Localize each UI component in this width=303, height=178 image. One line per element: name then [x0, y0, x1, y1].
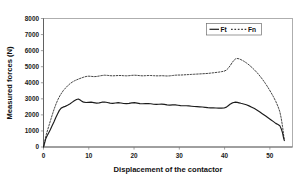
y-tick-label: 7000 — [25, 31, 40, 38]
measured-forces-line-chart: 010002000300040005000600070008000 010203… — [0, 0, 303, 178]
x-tick-label: 0 — [42, 152, 46, 159]
y-tick-label: 8000 — [25, 15, 40, 22]
x-tick-label: 10 — [85, 152, 93, 159]
y-tick-label: 6000 — [25, 47, 40, 54]
y-tick-label: 3000 — [25, 95, 40, 102]
y-axis-title: Measured forces (N) — [5, 46, 14, 119]
y-axis-tick-labels: 010002000300040005000600070008000 — [25, 15, 40, 151]
y-tick-label: 5000 — [25, 63, 40, 70]
chart-legend: Ft Fn — [207, 24, 262, 36]
legend-label-fn: Fn — [248, 26, 256, 33]
y-tick-label: 0 — [35, 143, 39, 150]
x-tick-label: 50 — [266, 152, 274, 159]
x-tick-label: 40 — [221, 152, 229, 159]
chart-figure: 010002000300040005000600070008000 010203… — [0, 0, 303, 178]
y-tick-label: 4000 — [25, 79, 40, 86]
x-tick-label: 30 — [176, 152, 184, 159]
x-tick-label: 20 — [130, 152, 138, 159]
legend-label-ft: Ft — [221, 26, 228, 33]
x-axis-title: Displacement of the contactor — [114, 165, 223, 174]
y-tick-label: 1000 — [25, 127, 40, 134]
y-tick-label: 2000 — [25, 111, 40, 118]
